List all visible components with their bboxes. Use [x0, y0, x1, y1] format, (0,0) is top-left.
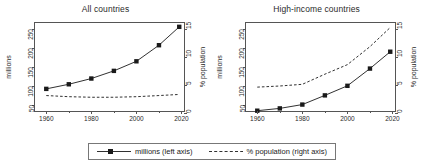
data-point-marker: [300, 102, 304, 106]
chart-legend: millions (left axis) % population (right…: [88, 143, 336, 160]
data-point-marker: [67, 82, 71, 86]
solid-line-marker-icon: [97, 147, 131, 156]
x-tick-minor: [370, 111, 371, 113]
y2-tick-label: 0: [396, 109, 403, 113]
x-tick-minor: [325, 111, 326, 113]
x-tick-minor: [280, 111, 281, 113]
data-point-marker: [388, 50, 392, 54]
data-point-marker: [89, 76, 93, 80]
x-tick-label: 1980: [84, 115, 98, 122]
dashed-line-icon: [209, 147, 243, 156]
plot-frame: 501001502002500510151960198020002020: [245, 22, 396, 112]
y2-tick-label: 15: [185, 21, 192, 28]
y-axis-title-left: millions: [5, 55, 12, 78]
x-tick: [181, 111, 182, 114]
panel-all-countries: All countries millions % population 5010…: [0, 0, 211, 134]
y2-tick-label: 10: [396, 50, 403, 57]
y-tick-label: 150: [239, 67, 246, 78]
y2-tick-label: 0: [185, 109, 192, 113]
data-point-marker: [157, 43, 161, 47]
y-tick-label: 200: [28, 48, 35, 59]
x-tick-minor: [69, 111, 70, 113]
y-tick-label: 250: [239, 29, 246, 40]
x-tick-label: 2020: [174, 115, 188, 122]
x-tick-label: 1980: [295, 115, 309, 122]
legend-label: millions (left axis): [135, 147, 193, 156]
y2-tick-label: 5: [396, 81, 403, 85]
data-point-marker: [112, 69, 116, 73]
series-line: [257, 52, 390, 111]
y2-tick-label: 10: [185, 50, 192, 57]
series-line: [257, 28, 390, 88]
legend-label: % population (right axis): [247, 147, 327, 156]
y2-tick: [395, 113, 398, 114]
x-tick-label: 2000: [340, 115, 354, 122]
legend-item-percent-population: % population (right axis): [209, 147, 327, 156]
y-tick-label: 150: [28, 67, 35, 78]
x-tick: [46, 111, 47, 114]
y-axis-title-right: % population: [199, 47, 206, 87]
y-axis-title-right: % population: [410, 47, 417, 87]
data-point-marker: [177, 25, 181, 29]
y-tick-label: 50: [239, 105, 246, 112]
data-point-marker: [368, 66, 372, 70]
panel-title: High-income countries: [211, 4, 422, 14]
x-tick: [392, 111, 393, 114]
x-tick-minor: [114, 111, 115, 113]
x-tick: [136, 111, 137, 114]
panel-high-income-countries: High-income countries millions % populat…: [211, 0, 422, 134]
x-tick: [347, 111, 348, 114]
series-line: [46, 27, 179, 89]
x-tick-minor: [159, 111, 160, 113]
x-tick: [302, 111, 303, 114]
y2-tick-label: 5: [185, 81, 192, 85]
panel-title: All countries: [0, 4, 211, 14]
y2-tick-label: 15: [396, 21, 403, 28]
y-axis-title-left: millions: [216, 55, 223, 78]
y-tick-label: 100: [239, 86, 246, 97]
y-tick-label: 200: [239, 48, 246, 59]
legend-item-millions: millions (left axis): [97, 147, 193, 156]
plot-frame: 501001502002500510151960198020002020: [34, 22, 185, 112]
y-tick-label: 100: [28, 86, 35, 97]
y2-tick: [395, 85, 398, 86]
data-point-marker: [278, 106, 282, 110]
x-tick: [257, 111, 258, 114]
series-line: [46, 94, 179, 97]
plot-area: [246, 23, 397, 113]
y2-tick: [184, 113, 187, 114]
y2-tick: [184, 85, 187, 86]
data-point-marker: [323, 93, 327, 97]
y-tick-label: 50: [28, 105, 35, 112]
x-tick-label: 1960: [250, 115, 264, 122]
x-tick-label: 2020: [385, 115, 399, 122]
figure: All countries millions % population 5010…: [0, 0, 423, 166]
plot-area: [35, 23, 186, 113]
data-point-marker: [44, 87, 48, 91]
data-point-marker: [134, 59, 138, 63]
data-point-marker: [345, 84, 349, 88]
y-tick-label: 250: [28, 29, 35, 40]
x-tick-label: 1960: [39, 115, 53, 122]
x-tick-label: 2000: [129, 115, 143, 122]
x-tick: [91, 111, 92, 114]
